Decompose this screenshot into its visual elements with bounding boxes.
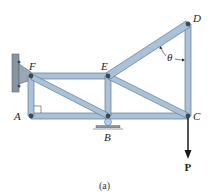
joint-D [186, 22, 191, 27]
member-FB [31, 74, 108, 120]
joint-C [186, 114, 191, 119]
member-EC [108, 73, 188, 119]
truss-diagram: θ P F A E B C D (a) [0, 0, 213, 196]
label-B: B [104, 131, 111, 143]
roller-support [93, 119, 123, 131]
right-angle-marker [34, 106, 41, 113]
joint-A [29, 114, 34, 119]
member-ED [106, 21, 190, 79]
truss-members [28, 21, 191, 119]
label-C: C [193, 110, 201, 122]
joint-F [29, 74, 34, 79]
label-E: E [100, 60, 108, 72]
member-FE [31, 73, 108, 79]
label-D: D [192, 12, 201, 24]
label-F: F [28, 60, 36, 72]
member-FA [28, 76, 34, 116]
member-EB [105, 76, 111, 116]
joint-E [106, 74, 111, 79]
member-DC [185, 24, 191, 116]
label-A: A [13, 110, 21, 122]
angle-label: θ [167, 51, 173, 63]
figure-caption: (a) [99, 180, 110, 192]
joint-B [106, 114, 111, 119]
load-label: P [185, 161, 192, 173]
load-arrow [185, 118, 192, 159]
